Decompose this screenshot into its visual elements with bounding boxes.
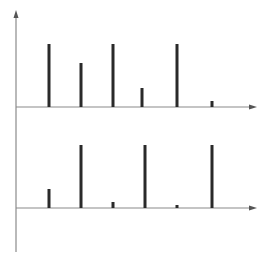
bottom-stem-4 — [144, 145, 147, 208]
x-axis-bottom-arrow-icon — [249, 206, 257, 211]
top-stem-5 — [176, 44, 179, 107]
top-stem-1 — [48, 44, 51, 107]
bottom-stem-5 — [176, 205, 179, 208]
bottom-stem-2 — [80, 145, 83, 208]
top-stem-6 — [211, 101, 214, 107]
y-axis-arrow-icon — [14, 10, 19, 18]
bottom-stem-3 — [112, 202, 115, 208]
x-axis-top-arrow-icon — [249, 105, 257, 110]
top-stem-4 — [141, 88, 144, 107]
stem-plot-figure — [0, 0, 268, 267]
top-chart-stems — [48, 44, 214, 107]
bottom-chart-stems — [48, 145, 214, 208]
top-stem-2 — [80, 63, 83, 107]
top-stem-3 — [112, 44, 115, 107]
bottom-stem-1 — [48, 189, 51, 208]
bottom-stem-6 — [211, 145, 214, 208]
